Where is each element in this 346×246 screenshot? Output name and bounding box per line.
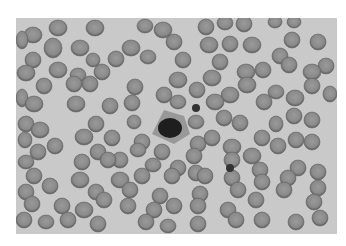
red-blood-cell [96,192,112,208]
red-blood-cell [154,144,170,160]
red-blood-cell [82,76,98,92]
red-blood-cell [216,110,232,126]
red-blood-cell [228,212,244,228]
red-blood-cell [104,130,120,146]
red-blood-cell [166,198,182,214]
red-blood-cell [287,18,301,28]
red-blood-cell [94,64,110,80]
red-blood-cell [190,198,206,214]
red-blood-cell [323,86,337,102]
red-blood-cell [170,95,186,109]
red-blood-cell [198,19,214,35]
red-blood-cell [255,62,271,78]
red-blood-cell [284,32,300,48]
red-blood-cell [54,198,70,214]
red-blood-cell [188,115,204,129]
red-blood-cell [156,87,172,103]
red-blood-cell [175,52,191,68]
red-blood-cell [16,212,32,228]
red-blood-cell [71,40,89,56]
red-blood-cell [310,180,326,196]
red-blood-cell [100,152,116,168]
red-blood-cell [306,194,322,210]
red-blood-cell [204,130,220,146]
red-blood-cell [44,38,62,58]
red-blood-cell [127,79,143,95]
red-blood-cell [124,95,140,111]
red-blood-cell [31,122,49,138]
red-blood-cell [303,64,321,80]
red-blood-cell [304,134,320,150]
red-blood-cell [24,196,40,212]
red-blood-cell [212,54,228,70]
red-blood-cell [134,168,150,184]
red-blood-cell [18,155,34,169]
red-blood-cell [312,210,328,226]
platelet [226,164,234,172]
red-blood-cell [243,148,261,164]
red-blood-cell [270,138,286,154]
red-blood-cell [74,154,90,170]
red-blood-cell [254,212,270,228]
red-blood-cell [243,37,261,53]
red-blood-cell [254,174,270,190]
red-blood-cell [38,215,54,229]
red-blood-cell [75,129,93,145]
red-blood-cell [288,132,304,148]
white-cell-nucleus [158,118,182,138]
micrograph [16,18,337,234]
red-blood-cell [186,148,202,164]
red-blood-cell [304,112,320,128]
red-blood-cell [137,19,153,33]
red-blood-cell [230,182,246,198]
red-blood-cell [276,182,292,198]
red-blood-cell [268,18,282,28]
red-blood-cell [206,94,224,110]
platelet [192,104,200,112]
red-blood-cell [189,82,205,98]
blood-smear-image [16,18,337,234]
red-blood-cell [90,216,106,232]
red-blood-cell [49,20,67,36]
red-blood-cell [304,78,320,94]
red-blood-cell [288,214,304,230]
red-blood-cell [152,188,168,204]
red-blood-cell [130,143,146,157]
red-blood-cell [42,178,58,194]
red-blood-cell [222,36,238,52]
red-blood-cell [75,202,93,218]
red-blood-cell [127,115,141,129]
red-blood-cell [18,132,32,148]
red-blood-cell [286,90,304,106]
red-blood-cell [248,192,264,208]
red-blood-cell [281,57,297,73]
red-blood-cell [67,96,85,112]
red-blood-cell [269,116,283,132]
red-blood-cell [169,72,187,88]
red-blood-cell [232,115,248,131]
red-blood-cell [254,130,270,146]
red-blood-cell [47,138,63,154]
red-blood-cell [256,94,272,110]
red-blood-cell [60,212,76,228]
red-blood-cell [203,70,221,86]
red-blood-cell [122,182,138,198]
red-blood-cell [36,78,52,94]
red-blood-cell [25,96,43,112]
red-blood-cell [310,34,326,50]
red-blood-cell [310,164,326,180]
red-blood-cell [26,168,42,184]
red-blood-cell [108,51,124,67]
red-blood-cell [200,37,218,53]
red-blood-cell [238,77,256,93]
red-blood-cell [17,65,35,81]
red-blood-cell [236,18,252,32]
red-blood-cell [217,18,233,30]
red-blood-cell [120,198,136,214]
red-blood-cell [16,31,28,49]
red-blood-cell [66,76,82,92]
red-blood-cell [140,50,156,64]
red-blood-cell [49,62,67,78]
red-blood-cell [160,219,176,233]
red-blood-cell [88,116,104,132]
